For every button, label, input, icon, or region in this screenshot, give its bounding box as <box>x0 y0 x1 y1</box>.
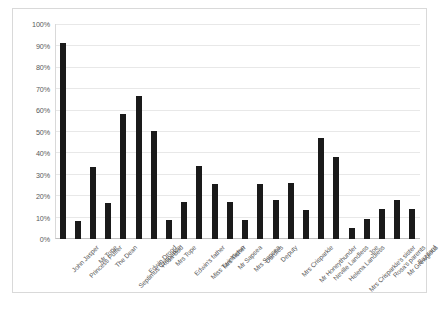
bar[interactable] <box>90 167 96 239</box>
y-axis-tick-label: 70% <box>36 84 50 93</box>
bar-slot <box>131 24 146 239</box>
y-axis-tick-label: 50% <box>36 127 50 136</box>
bar[interactable] <box>394 200 400 239</box>
bars-layer <box>55 24 420 239</box>
bar-slot <box>177 24 192 239</box>
y-axis-tick-label: 90% <box>36 41 50 50</box>
bar-slot <box>161 24 176 239</box>
y-axis-tick-label: 10% <box>36 213 50 222</box>
bar[interactable] <box>409 209 415 239</box>
bar[interactable] <box>212 184 218 239</box>
bar-slot <box>329 24 344 239</box>
bar-chart-figure: 0%10%20%30%40%50%60%70%80%90%100% John J… <box>0 0 440 311</box>
y-axis-tick-label: 60% <box>36 106 50 115</box>
bar-slot <box>101 24 116 239</box>
bar-slot <box>374 24 389 239</box>
bar-slot <box>405 24 420 239</box>
bar-slot <box>253 24 268 239</box>
y-axis-tick-label: 0% <box>40 235 50 244</box>
bar[interactable] <box>273 200 279 239</box>
bar-slot <box>344 24 359 239</box>
bar-slot <box>268 24 283 239</box>
bar[interactable] <box>333 157 339 239</box>
bar-slot <box>146 24 161 239</box>
bar-slot <box>207 24 222 239</box>
y-axis-tick-label: 20% <box>36 192 50 201</box>
y-axis-tick-label: 40% <box>36 149 50 158</box>
bar-slot <box>222 24 237 239</box>
bar-slot <box>390 24 405 239</box>
bar-slot <box>314 24 329 239</box>
bar-slot <box>359 24 374 239</box>
chart-plot-frame: 0%10%20%30%40%50%60%70%80%90%100% John J… <box>12 8 427 293</box>
bar-slot <box>116 24 131 239</box>
bar[interactable] <box>120 114 126 239</box>
bar-slot <box>55 24 70 239</box>
x-axis: John JasperPrincess PufferMr TopeThe Dea… <box>55 241 420 311</box>
bar-slot <box>283 24 298 239</box>
bar-slot <box>70 24 85 239</box>
bar[interactable] <box>257 184 263 239</box>
bar[interactable] <box>60 43 66 239</box>
bar[interactable] <box>242 220 248 239</box>
y-axis-tick-label: 30% <box>36 170 50 179</box>
bar[interactable] <box>227 202 233 239</box>
y-axis-tick-label: 80% <box>36 63 50 72</box>
bar[interactable] <box>303 210 309 239</box>
bar[interactable] <box>288 183 294 239</box>
bar[interactable] <box>181 202 187 239</box>
bar[interactable] <box>136 96 142 239</box>
bar[interactable] <box>75 221 81 239</box>
bar[interactable] <box>196 166 202 239</box>
bar-slot <box>192 24 207 239</box>
bar[interactable] <box>364 219 370 239</box>
bar-slot <box>85 24 100 239</box>
y-axis-tick-label: 100% <box>32 20 50 29</box>
bar-slot <box>298 24 313 239</box>
bar-slot <box>238 24 253 239</box>
y-axis: 0%10%20%30%40%50%60%70%80%90%100% <box>13 24 53 239</box>
bar[interactable] <box>151 131 157 239</box>
bar[interactable] <box>105 203 111 239</box>
bar[interactable] <box>379 209 385 239</box>
bar[interactable] <box>318 138 324 239</box>
bar[interactable] <box>349 228 355 239</box>
bar[interactable] <box>166 220 172 239</box>
